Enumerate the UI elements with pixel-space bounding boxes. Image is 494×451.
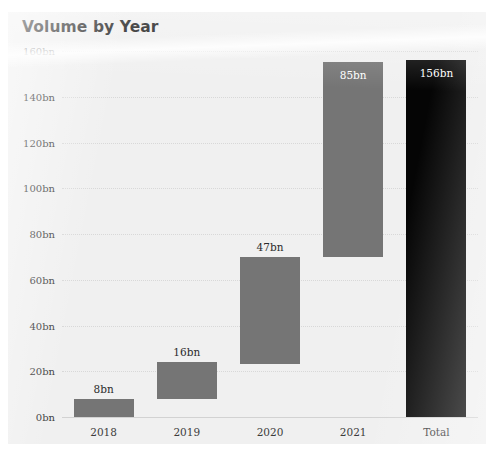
bar-value-label-2020: 47bn bbox=[257, 241, 284, 253]
y-axis-tick-label: 60bn bbox=[29, 274, 55, 285]
bar-value-label-total: 156bn bbox=[420, 67, 454, 79]
gridline bbox=[62, 417, 478, 419]
bar-2020[interactable] bbox=[240, 257, 300, 365]
bar-value-label-2018: 8bn bbox=[94, 383, 114, 395]
bar-value-label-2021: 85bn bbox=[340, 69, 367, 81]
chart-card: Volume by Year 0bn20bn40bn60bn80bn100bn1… bbox=[8, 12, 486, 444]
bar-2021[interactable] bbox=[323, 62, 383, 256]
y-axis-tick-label: 100bn bbox=[23, 183, 55, 194]
bar-2018[interactable] bbox=[74, 399, 134, 417]
chart-title: Volume by Year bbox=[22, 18, 159, 36]
plot-area: 0bn20bn40bn60bn80bn100bn120bn140bn160bn … bbox=[62, 51, 478, 417]
y-axis-tick-label: 160bn bbox=[23, 46, 55, 57]
bar-2019[interactable] bbox=[157, 362, 217, 399]
y-axis-tick-label: 120bn bbox=[23, 137, 55, 148]
y-axis-tick-label: 0bn bbox=[36, 412, 55, 423]
bar-value-label-2019: 16bn bbox=[173, 346, 200, 358]
bar-total[interactable] bbox=[406, 60, 466, 417]
y-axis-tick-label: 140bn bbox=[23, 91, 55, 102]
gridline bbox=[62, 51, 478, 53]
x-axis-tick-label-2019: 2019 bbox=[173, 426, 200, 438]
y-axis-tick-label: 20bn bbox=[29, 366, 55, 377]
y-axis-tick-label: 40bn bbox=[29, 320, 55, 331]
x-axis-tick-label-2018: 2018 bbox=[90, 426, 117, 438]
x-axis-tick-label-2021: 2021 bbox=[340, 426, 367, 438]
y-axis-tick-label: 80bn bbox=[29, 229, 55, 240]
x-axis-tick-label-total: Total bbox=[423, 426, 449, 438]
x-axis-tick-label-2020: 2020 bbox=[257, 426, 284, 438]
